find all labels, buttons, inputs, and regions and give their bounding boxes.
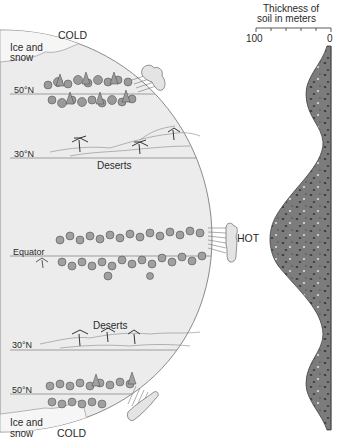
soil-title-line2: soil in meters <box>257 13 316 24</box>
label-50n-bottom: 50°N <box>12 385 32 396</box>
soil-thickness-shape <box>270 46 331 430</box>
soil-axis-label-100: 100 <box>246 33 263 44</box>
label-30n-bottom: 30°N <box>12 340 32 351</box>
label-30n-top: 30°N <box>14 149 34 160</box>
label-cold-bottom: COLD <box>57 428 86 439</box>
diagram-graphics <box>0 0 338 442</box>
soil-axis-label-0: 0 <box>327 33 333 44</box>
label-ice-snow-bottom-1: Ice and <box>10 417 43 428</box>
label-50n-top: 50°N <box>14 85 34 96</box>
hemisphere <box>0 30 237 432</box>
soil-axis <box>256 28 331 32</box>
label-hot: HOT <box>237 233 259 244</box>
label-cold-top: COLD <box>58 30 87 41</box>
label-deserts-top: Deserts <box>97 160 131 171</box>
label-deserts-bottom: Deserts <box>93 320 127 331</box>
label-ice-snow-bottom-2: snow <box>10 428 33 439</box>
label-equator: Equator <box>13 247 45 258</box>
soil-profile-chart <box>256 28 331 430</box>
label-ice-snow-top-2: snow <box>10 52 33 63</box>
